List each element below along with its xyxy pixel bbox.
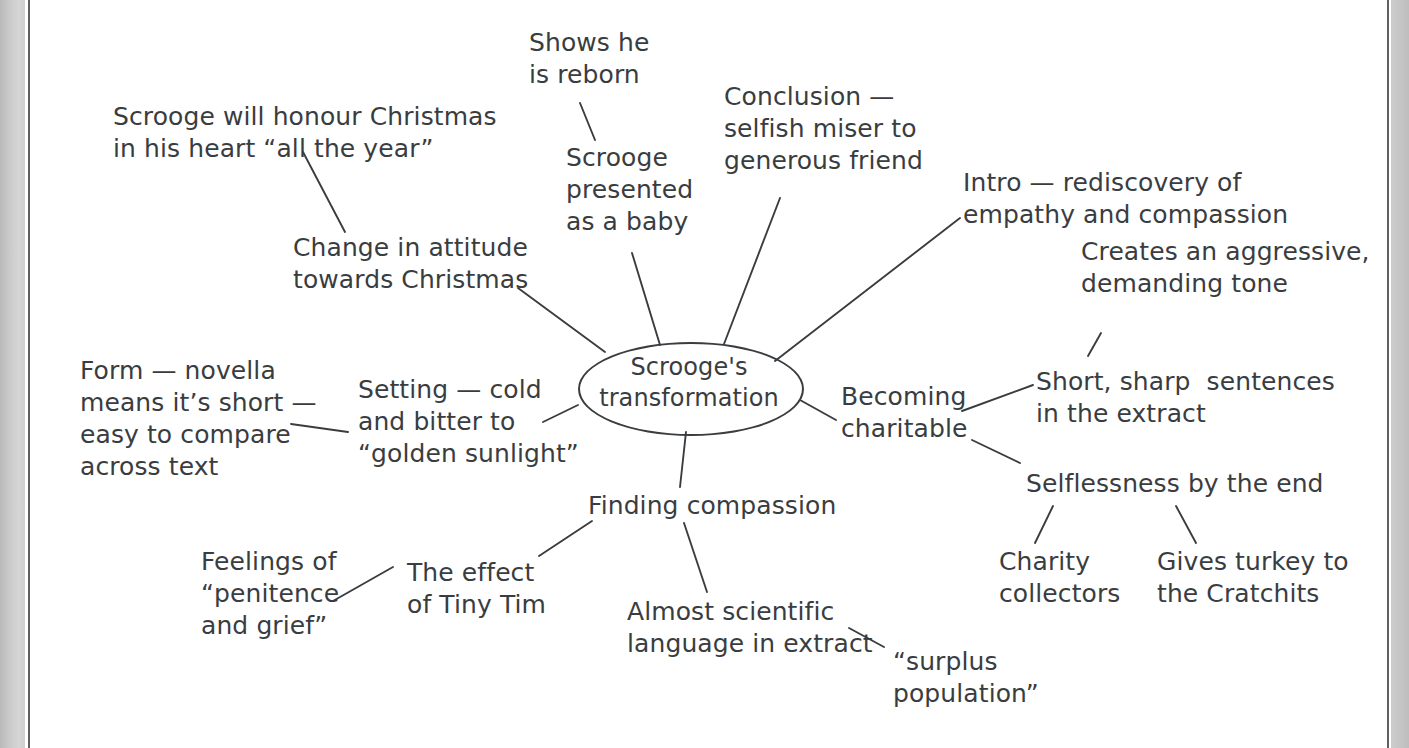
- node-surplus-population: “surplus population”: [893, 646, 1039, 710]
- node-becoming-charitable: Becoming charitable: [841, 381, 967, 445]
- mindmap-canvas: Scrooge'stransformation Scrooge will hon…: [0, 0, 1409, 748]
- connector-center-to-scrooge-as-baby: [632, 253, 660, 345]
- central-node-line2: transformation: [599, 384, 779, 412]
- node-setting: Setting — cold and bitter to “golden sun…: [358, 374, 579, 470]
- connector-center-to-becoming-charitable: [800, 400, 836, 420]
- node-aggressive-tone: Creates an aggressive, demanding tone: [1081, 236, 1370, 300]
- node-scrooge-as-baby: Scrooge presented as a baby: [566, 142, 693, 238]
- node-finding-compassion: Finding compassion: [588, 490, 836, 522]
- connector-center-to-conclusion: [724, 198, 780, 344]
- central-node-label: Scrooge'stransformation: [578, 352, 800, 414]
- node-gives-turkey: Gives turkey to the Cratchits: [1157, 546, 1349, 610]
- connector-scrooge-as-baby-to-shows-he-is-reborn: [580, 103, 595, 140]
- connector-selflessness-to-gives-turkey: [1176, 506, 1196, 543]
- node-shows-he-is-reborn: Shows he is reborn: [529, 27, 649, 91]
- node-feelings-of-penitence: Feelings of “penitence and grief”: [201, 546, 339, 642]
- node-charity-collectors: Charity collectors: [999, 546, 1120, 610]
- node-scientific-language: Almost scientific language in extract: [627, 596, 873, 660]
- node-intro: Intro — rediscovery of empathy and compa…: [963, 167, 1288, 231]
- connector-finding-compassion-to-scientific-language: [684, 523, 707, 592]
- connector-short-sharp-sentences-to-aggressive-tone: [1088, 333, 1101, 356]
- node-change-in-attitude: Change in attitude towards Christmas: [293, 232, 528, 296]
- connector-becoming-charitable-to-selflessness: [972, 440, 1020, 463]
- node-effect-of-tiny-tim: The effect of Tiny Tim: [407, 557, 546, 621]
- connector-selflessness-to-charity-collectors: [1035, 506, 1053, 543]
- central-node-line1: Scrooge's: [630, 353, 747, 381]
- node-form-novella: Form — novella means it’s short — easy t…: [80, 355, 317, 483]
- connector-finding-compassion-to-effect-of-tiny-tim: [539, 521, 592, 556]
- node-conclusion: Conclusion — selfish miser to generous f…: [724, 81, 923, 177]
- connector-center-to-change-in-attitude: [518, 288, 605, 352]
- connector-effect-of-tiny-tim-to-feelings-of-penitence: [333, 567, 393, 601]
- node-short-sharp-sentences: Short, sharp sentences in the extract: [1036, 366, 1335, 430]
- connector-becoming-charitable-to-short-sharp-sentences: [962, 385, 1033, 411]
- connector-center-to-intro: [775, 218, 960, 361]
- node-scrooge-honour-christmas: Scrooge will honour Christmas in his hea…: [113, 101, 497, 165]
- connector-center-to-finding-compassion: [680, 432, 686, 487]
- node-selflessness: Selflessness by the end: [1026, 468, 1324, 500]
